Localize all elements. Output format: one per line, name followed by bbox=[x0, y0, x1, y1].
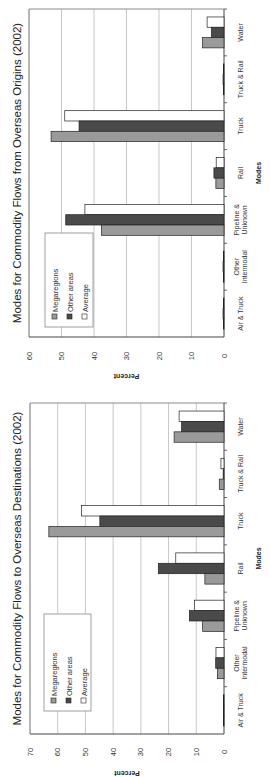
category-label: Truck & Rail bbox=[237, 455, 244, 493]
bar-average bbox=[216, 158, 224, 168]
legend-swatch bbox=[52, 314, 57, 319]
category-label: Truck bbox=[237, 512, 244, 530]
bar-other-areas bbox=[223, 705, 224, 715]
y-tick-label: 10 bbox=[192, 748, 201, 756]
bar-other-areas bbox=[223, 74, 224, 84]
bar-other-areas bbox=[79, 121, 224, 131]
y-tick-label: 0 bbox=[220, 354, 229, 358]
y-tick-label: 60 bbox=[25, 352, 34, 360]
bar-average bbox=[194, 600, 224, 610]
legend-label: Average bbox=[81, 284, 90, 312]
y-tick-label: 30 bbox=[122, 352, 131, 360]
bar-average bbox=[223, 695, 224, 705]
bar-megaregions bbox=[203, 38, 224, 48]
chart-panel-origins: 0102030405060Air & TruckOtherIntermodalP… bbox=[11, 9, 262, 380]
category-label: Other bbox=[233, 257, 240, 275]
category-label: Rail bbox=[237, 167, 244, 180]
category-label: Other bbox=[233, 654, 240, 672]
bar-megaregions bbox=[174, 432, 224, 442]
bar-average bbox=[179, 411, 224, 421]
category-label: Water bbox=[237, 417, 244, 436]
legend-label: Average bbox=[80, 668, 89, 696]
bar-average bbox=[65, 111, 224, 121]
bar-megaregions bbox=[205, 574, 224, 584]
bar-megaregions bbox=[223, 716, 224, 726]
category-label: Unknown bbox=[241, 601, 248, 630]
legend-swatch bbox=[67, 314, 72, 319]
bar-other-areas bbox=[189, 611, 224, 621]
legend: MegaregionsOther areasAverage bbox=[45, 233, 93, 327]
y-tick-label: 40 bbox=[109, 748, 118, 756]
y-tick-label: 50 bbox=[81, 748, 90, 756]
bar-average bbox=[223, 251, 224, 261]
bar-average bbox=[85, 204, 224, 214]
bar-average bbox=[176, 553, 224, 563]
figure-canvas: 0102030405060Air & TruckOtherIntermodalP… bbox=[0, 0, 271, 777]
charts-figure: 0102030405060Air & TruckOtherIntermodalP… bbox=[0, 0, 271, 777]
y-tick-label: 50 bbox=[57, 352, 66, 360]
bar-megaregions bbox=[49, 526, 224, 536]
bar-other-areas bbox=[211, 27, 224, 37]
bar-other-areas bbox=[158, 563, 224, 573]
y-tick-label: 30 bbox=[136, 748, 145, 756]
bar-megaregions bbox=[101, 225, 224, 235]
category-label: Intermodal bbox=[241, 646, 248, 680]
bar-other-areas bbox=[223, 469, 224, 479]
y-axis-title: Percent bbox=[113, 770, 139, 777]
bar-megaregions bbox=[217, 668, 224, 678]
chart-panel-destinations: 010203040506070Air & TruckOtherIntermoda… bbox=[11, 403, 262, 777]
legend-label: Megaregions bbox=[50, 652, 59, 696]
bar-average bbox=[223, 298, 224, 308]
legend: MegaregionsOther areasAverage bbox=[44, 614, 91, 711]
y-tick-label: 20 bbox=[164, 748, 173, 756]
bar-megaregions bbox=[219, 479, 224, 489]
category-label: Truck bbox=[237, 117, 244, 135]
legend-label: Megaregions bbox=[51, 268, 60, 312]
bar-megaregions bbox=[51, 131, 224, 141]
legend-swatch bbox=[82, 314, 87, 319]
y-tick-label: 70 bbox=[26, 748, 35, 756]
bar-average bbox=[223, 64, 224, 74]
category-label: Truck & Rail bbox=[237, 60, 244, 98]
x-axis-title: Modes bbox=[255, 547, 262, 569]
bar-other-areas bbox=[216, 658, 224, 668]
y-tick-label: 10 bbox=[187, 352, 196, 360]
y-tick-label: 40 bbox=[90, 352, 99, 360]
bar-megaregions bbox=[223, 272, 224, 282]
bar-other-areas bbox=[223, 262, 224, 272]
category-label: Rail bbox=[237, 562, 244, 575]
bar-other-areas bbox=[214, 168, 224, 178]
chart-title: Modes for Commodity Flows to Overseas De… bbox=[11, 411, 23, 725]
bar-other-areas bbox=[223, 308, 224, 318]
legend-label: Other areas bbox=[65, 656, 74, 696]
y-tick-label: 60 bbox=[53, 748, 62, 756]
bar-megaregions bbox=[216, 178, 224, 188]
legend-label: Other areas bbox=[66, 272, 75, 312]
legend-swatch bbox=[51, 698, 56, 703]
category-label: Pipeline & bbox=[233, 600, 241, 632]
bar-megaregions bbox=[223, 84, 224, 94]
legend-swatch bbox=[81, 698, 86, 703]
category-label: Pipeline & bbox=[233, 204, 241, 236]
y-axis-title: Percent bbox=[113, 373, 139, 380]
legend-swatch bbox=[66, 698, 71, 703]
y-tick-label: 20 bbox=[155, 352, 164, 360]
category-label: Water bbox=[237, 23, 244, 42]
bar-average bbox=[207, 17, 224, 27]
bar-megaregions bbox=[223, 319, 224, 329]
chart-title: Modes for Commodity Flows from Overseas … bbox=[11, 23, 23, 324]
x-axis-title: Modes bbox=[255, 162, 262, 184]
bar-other-areas bbox=[100, 516, 224, 526]
bar-other-areas bbox=[182, 421, 224, 431]
bar-megaregions bbox=[203, 621, 224, 631]
category-label: Unknown bbox=[241, 205, 248, 234]
bar-other-areas bbox=[66, 215, 224, 225]
bar-average bbox=[221, 458, 224, 468]
bar-average bbox=[82, 506, 224, 516]
category-label: Air & Truck bbox=[237, 693, 244, 728]
y-tick-label: 0 bbox=[220, 750, 229, 754]
bar-average bbox=[216, 647, 224, 657]
category-label: Intermodal bbox=[241, 250, 248, 284]
category-label: Air & Truck bbox=[237, 296, 244, 331]
